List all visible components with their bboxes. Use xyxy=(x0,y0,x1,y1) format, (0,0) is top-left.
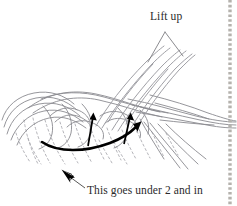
braid-diagram xyxy=(0,0,237,206)
figure-page: Lift up This goes under 2 and in xyxy=(0,0,237,206)
braid-strand xyxy=(160,120,214,125)
hidden-strand xyxy=(33,118,50,163)
trailing-strand xyxy=(158,124,198,164)
braid-strand xyxy=(67,121,104,139)
hidden-strand xyxy=(28,138,41,164)
lift-up-leader-right xyxy=(165,32,183,56)
hidden-strand xyxy=(75,124,92,163)
lifted-strands-group xyxy=(96,46,195,131)
lift-arrow-left-head xyxy=(90,113,97,121)
hidden-strand xyxy=(60,122,78,163)
under-two-callout-group xyxy=(62,170,86,189)
braid-strand xyxy=(55,115,92,134)
under-two-label: This goes under 2 and in xyxy=(87,184,203,196)
trailing-strand xyxy=(166,124,206,159)
lift-up-label: Lift up xyxy=(150,10,182,22)
under-two-leader xyxy=(70,177,85,188)
lifted-strand xyxy=(126,69,168,124)
hidden-strand xyxy=(137,131,150,158)
hidden-strand xyxy=(114,142,127,164)
braid-strand xyxy=(136,112,236,128)
hidden-strand xyxy=(16,133,30,162)
